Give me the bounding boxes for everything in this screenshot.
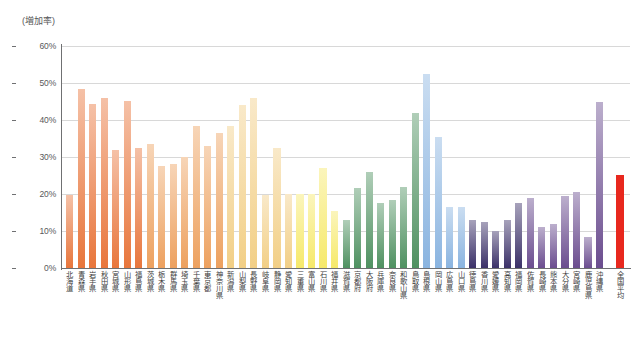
bar[interactable] — [112, 150, 119, 268]
bar-column[interactable] — [412, 46, 419, 268]
bar[interactable] — [262, 195, 269, 268]
bar[interactable] — [377, 203, 384, 268]
bar[interactable] — [366, 172, 373, 268]
bar[interactable] — [193, 126, 200, 268]
bar[interactable] — [158, 166, 165, 268]
bar-column[interactable] — [481, 46, 488, 268]
bar[interactable] — [400, 187, 407, 268]
bar[interactable] — [78, 89, 85, 268]
bar[interactable] — [550, 224, 557, 268]
bar-column[interactable] — [193, 46, 200, 268]
bar-column[interactable] — [158, 46, 165, 268]
bar[interactable] — [389, 200, 396, 268]
bar-column[interactable] — [319, 46, 326, 268]
bar-column[interactable] — [273, 46, 280, 268]
bar-column[interactable] — [435, 46, 442, 268]
bar-column[interactable] — [296, 46, 303, 268]
bar-column[interactable] — [216, 46, 223, 268]
bar[interactable] — [250, 98, 257, 268]
bar-column[interactable] — [147, 46, 154, 268]
bar-column[interactable] — [135, 46, 142, 268]
bar[interactable] — [412, 113, 419, 268]
bar[interactable] — [331, 211, 338, 268]
bar-column[interactable] — [584, 46, 591, 268]
bar[interactable] — [170, 164, 177, 268]
bar[interactable] — [204, 146, 211, 268]
bar-column[interactable] — [596, 46, 603, 268]
bar-column[interactable] — [89, 46, 96, 268]
bar-column[interactable] — [170, 46, 177, 268]
bar[interactable] — [354, 188, 361, 268]
bar-column[interactable] — [527, 46, 534, 268]
bar[interactable] — [319, 168, 326, 268]
x-tick-label: 佐賀県 — [526, 271, 534, 292]
bar-column[interactable] — [550, 46, 557, 268]
bar-column[interactable] — [504, 46, 511, 268]
bar[interactable] — [469, 220, 476, 268]
bar-column[interactable] — [561, 46, 568, 268]
bar[interactable] — [181, 157, 188, 268]
bar[interactable] — [515, 203, 522, 268]
bar-column[interactable] — [423, 46, 430, 268]
bar-column[interactable] — [78, 46, 85, 268]
bar-column[interactable] — [354, 46, 361, 268]
bar-column[interactable] — [101, 46, 108, 268]
bar[interactable] — [343, 220, 350, 268]
bar-column[interactable] — [343, 46, 350, 268]
bar-column[interactable] — [538, 46, 545, 268]
bar-column[interactable] — [262, 46, 269, 268]
bar[interactable] — [596, 102, 603, 269]
bar[interactable] — [135, 148, 142, 268]
bar-column[interactable] — [285, 46, 292, 268]
bar-column[interactable] — [66, 46, 73, 268]
bar-column[interactable] — [112, 46, 119, 268]
bar-column[interactable] — [469, 46, 476, 268]
bar[interactable] — [89, 104, 96, 268]
bar[interactable] — [308, 194, 315, 268]
bar-column[interactable] — [227, 46, 234, 268]
bar-column[interactable] — [366, 46, 373, 268]
bar[interactable] — [147, 144, 154, 268]
bar-column[interactable] — [515, 46, 522, 268]
bar-column[interactable] — [250, 46, 257, 268]
bar-column[interactable] — [181, 46, 188, 268]
bar[interactable] — [227, 126, 234, 268]
bar[interactable] — [124, 101, 131, 268]
bar-column[interactable] — [400, 46, 407, 268]
bar[interactable] — [504, 220, 511, 268]
bar[interactable] — [423, 74, 430, 268]
bar[interactable] — [446, 207, 453, 268]
bar-column[interactable] — [331, 46, 338, 268]
bar[interactable] — [435, 137, 442, 268]
bar[interactable] — [101, 98, 108, 268]
x-tick-label: 広島県 — [446, 271, 454, 292]
bar-column[interactable] — [492, 46, 499, 268]
bar[interactable] — [458, 207, 465, 268]
bar-column[interactable] — [389, 46, 396, 268]
bar-column[interactable] — [616, 46, 623, 268]
bar-column[interactable] — [377, 46, 384, 268]
bar-column[interactable] — [573, 46, 580, 268]
bar-column[interactable] — [446, 46, 453, 268]
bar[interactable] — [273, 148, 280, 268]
bar-column[interactable] — [124, 46, 131, 268]
bar-column[interactable] — [204, 46, 211, 268]
bar-column[interactable] — [308, 46, 315, 268]
bar[interactable] — [481, 222, 488, 268]
bar[interactable] — [527, 198, 534, 268]
bar[interactable] — [216, 133, 223, 268]
bar-column[interactable] — [458, 46, 465, 268]
bar[interactable] — [239, 105, 246, 268]
bar[interactable] — [561, 196, 568, 268]
bar-column[interactable] — [239, 46, 246, 268]
bar[interactable] — [616, 175, 623, 268]
x-tick-label: 大分県 — [561, 271, 569, 292]
bar[interactable] — [285, 194, 292, 268]
x-tick-label: 福井県 — [331, 271, 339, 292]
bar[interactable] — [492, 231, 499, 268]
bar[interactable] — [538, 227, 545, 268]
bar[interactable] — [66, 195, 73, 268]
bar[interactable] — [573, 192, 580, 268]
bar[interactable] — [584, 237, 591, 268]
bar[interactable] — [296, 194, 303, 268]
